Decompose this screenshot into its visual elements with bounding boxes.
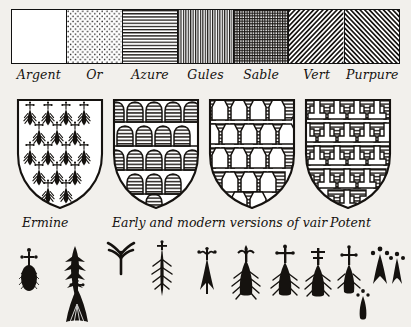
tincture-swatch-sable — [234, 10, 289, 63]
tincture-label-azure: Azure — [122, 64, 178, 86]
tincture-label-gules: Gules — [178, 64, 234, 86]
tincture-label-purpure: Purpure — [344, 64, 400, 86]
argent-plain-field — [12, 10, 66, 63]
or-dotted-field — [67, 10, 121, 63]
tincture-label-or: Or — [67, 64, 123, 86]
shield-potent — [302, 96, 394, 212]
shield-ermine — [14, 96, 106, 212]
azure-horizontal-hatching — [123, 10, 177, 63]
vert-diagonal-hatching — [289, 10, 343, 63]
purpure-diagonal-hatching — [345, 10, 399, 63]
tincture-swatch-strip — [11, 9, 400, 64]
tincture-swatch-argent — [12, 10, 67, 63]
ermine-spot-feathered-drop-fleur — [228, 244, 264, 302]
tincture-swatch-vert — [289, 10, 344, 63]
fur-caption-potent: Potent — [330, 212, 371, 234]
gules-vertical-hatching — [178, 10, 232, 63]
vair-modern-shield-drawing — [206, 96, 298, 212]
tincture-label-sable: Sable — [233, 64, 289, 86]
tincture-swatch-gules — [178, 10, 233, 63]
fur-shields-row — [0, 96, 411, 212]
ermine-spot-tapered-shaft-with-barbs — [148, 240, 176, 298]
fur-caption-row: Ermine Early and modern versions of vair… — [0, 212, 411, 234]
tincture-swatch-azure — [123, 10, 178, 63]
ermine-spot-oval-body-hatched-crosslet — [14, 244, 44, 298]
potent-shield-drawing — [302, 96, 394, 212]
ermine-spot-feathered-drop-crosslet — [268, 244, 302, 302]
tincture-swatch-or — [67, 10, 122, 63]
vair-early-shield-drawing — [110, 96, 202, 212]
shield-vair-early — [110, 96, 202, 212]
ermine-spot-specimen-row — [0, 236, 411, 327]
tincture-swatch-purpure — [345, 10, 399, 63]
sable-crosshatching — [234, 10, 288, 63]
ermine-spot-fan-tail-with-crosslet — [60, 280, 94, 326]
tincture-label-argent: Argent — [11, 64, 67, 86]
ermine-spot-tiny-dotted-teardrop — [352, 284, 374, 324]
ermine-spot-double-cross-feathered-drop — [302, 246, 334, 302]
ermine-shield-drawing — [14, 96, 106, 212]
tincture-label-row: Argent Or Azure Gules Sable Vert Purpure — [11, 64, 400, 86]
ermine-spot-splayed-three-prong — [104, 240, 138, 276]
fur-caption-vair: Early and modern versions of vair — [112, 212, 327, 234]
ermine-spot-plain-arrow-with-studs — [192, 246, 222, 296]
shield-vair-modern — [206, 96, 298, 212]
heraldry-plate: Argent Or Azure Gules Sable Vert Purpure — [0, 0, 411, 327]
ermine-spot-small-three-dot-drop — [386, 248, 408, 288]
fur-caption-ermine: Ermine — [22, 212, 68, 234]
tincture-label-vert: Vert — [289, 64, 345, 86]
